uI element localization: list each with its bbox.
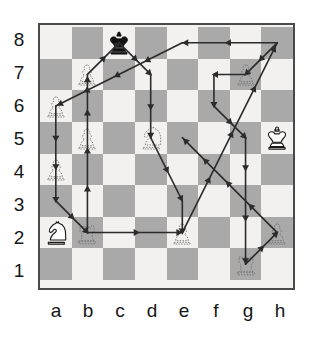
file-label-b: b xyxy=(72,301,104,320)
file-label-g: g xyxy=(232,301,264,320)
file-label-a: a xyxy=(40,301,72,320)
piece-white-pawn-g7 xyxy=(230,59,262,91)
board-pieces xyxy=(40,25,297,292)
piece-white-pawn-a6 xyxy=(40,90,72,122)
piece-white-pawn-a4 xyxy=(40,154,72,186)
piece-white-king-h5 xyxy=(261,122,293,154)
file-label-f: f xyxy=(200,301,232,320)
piece-white-pawn-b7 xyxy=(72,59,104,91)
piece-white-pawn-h2 xyxy=(261,217,293,249)
file-label-d: d xyxy=(136,301,168,320)
rank-label-6: 6 xyxy=(8,96,30,115)
piece-white-rook-g1 xyxy=(230,248,262,280)
chess-diagram: 8 7 6 5 4 3 2 1 a b c d e f g h xyxy=(0,0,315,337)
piece-white-knight-a2 xyxy=(40,217,72,249)
rank-label-5: 5 xyxy=(8,129,30,148)
file-label-h: h xyxy=(264,301,296,320)
piece-white-pawn-b5 xyxy=(72,122,104,154)
chess-board xyxy=(38,23,295,290)
rank-label-1: 1 xyxy=(8,261,30,280)
rank-label-3: 3 xyxy=(8,195,30,214)
piece-white-rook-b2 xyxy=(72,217,104,249)
rank-label-7: 7 xyxy=(8,63,30,82)
piece-white-pawn-e2 xyxy=(167,217,199,249)
rank-label-4: 4 xyxy=(8,162,30,181)
rank-label-2: 2 xyxy=(8,228,30,247)
piece-white-knight-d5 xyxy=(135,122,167,154)
file-label-e: e xyxy=(168,301,200,320)
rank-label-8: 8 xyxy=(8,30,30,49)
file-label-c: c xyxy=(104,301,136,320)
piece-black-king-c8 xyxy=(103,27,135,59)
